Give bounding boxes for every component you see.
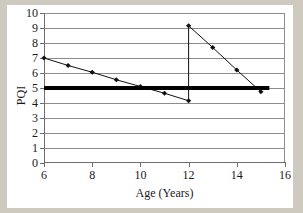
y-tick-label: 2 [32, 127, 38, 139]
x-tick [285, 162, 286, 167]
y-tick-label: 6 [32, 67, 38, 79]
y-tick-label: 3 [32, 112, 38, 124]
chart-figure: PQI Age (Years) 012345678910 6810121416 [7, 5, 293, 208]
y-tick-label: 8 [32, 37, 38, 49]
x-axis-title: Age (Years) [44, 186, 285, 201]
y-tick-label: 10 [26, 7, 38, 19]
chart-canvas: PQI Age (Years) 012345678910 6810121416 [7, 5, 293, 208]
y-tick-label: 4 [32, 97, 38, 109]
y-tick-label: 1 [32, 142, 38, 154]
x-tick-label: 12 [183, 169, 195, 181]
data-series-layer [44, 13, 285, 163]
data-point-marker [66, 63, 71, 68]
x-tick-label: 6 [41, 169, 47, 181]
y-tick-label: 0 [32, 157, 38, 169]
y-tick-label: 7 [32, 52, 38, 64]
x-tick-label: 14 [231, 169, 243, 181]
y-tick-label: 5 [32, 82, 38, 94]
y-tick-label: 9 [32, 22, 38, 34]
x-tick-label: 16 [279, 169, 291, 181]
plot-area: 012345678910 6810121416 [44, 13, 285, 163]
data-point-marker [186, 98, 191, 103]
data-point-marker [162, 91, 167, 96]
x-tick-label: 10 [134, 169, 146, 181]
x-tick-label: 8 [89, 169, 95, 181]
data-point-marker [90, 70, 95, 75]
data-point-marker [114, 77, 119, 82]
data-point-marker [41, 55, 46, 60]
y-axis-title: PQI [14, 66, 29, 126]
